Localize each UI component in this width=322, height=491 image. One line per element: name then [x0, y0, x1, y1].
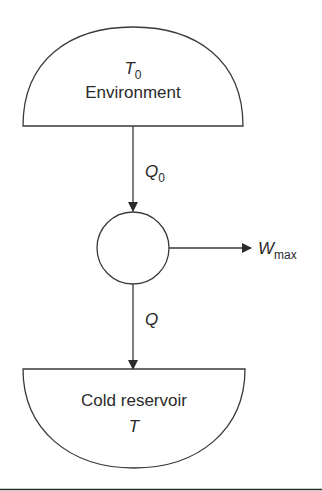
environment-temperature-symbol: T: [124, 59, 134, 78]
environment-temperature-subscript: 0: [135, 68, 142, 82]
engine-circle: [97, 212, 169, 284]
work-out-subscript: max: [274, 248, 297, 262]
cold-reservoir-temperature-label: T: [129, 418, 139, 435]
work-out-symbol: W: [258, 239, 274, 258]
heat-in-subscript: 0: [158, 171, 165, 185]
heat-in-symbol: Q: [145, 162, 158, 181]
heat-out-label: Q: [145, 311, 158, 328]
work-out-label: Wmax: [258, 240, 297, 257]
cold-reservoir-label: Cold reservoir: [81, 392, 187, 409]
heat-in-label: Q0: [145, 163, 165, 180]
environment-label: Environment: [85, 84, 180, 101]
environment-temperature-label: T0: [124, 60, 141, 77]
